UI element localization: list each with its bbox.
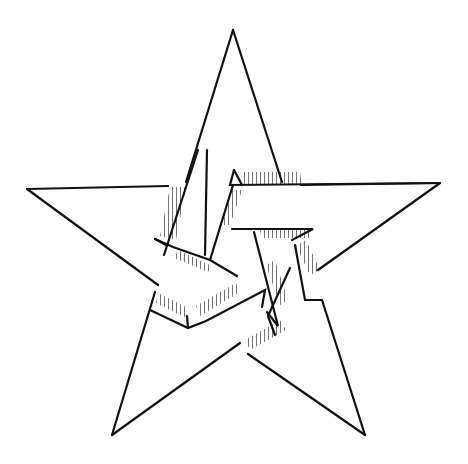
outer-edge-top-left <box>186 30 233 182</box>
pentagram-diagram: Interlaced pentagram <box>0 0 468 464</box>
hatch-4 <box>260 230 310 238</box>
outer-edge-right-bottom <box>318 183 440 270</box>
outer-edge-top-right <box>233 30 282 182</box>
outer-edge-bl-right <box>112 343 240 435</box>
hatch-1 <box>160 187 186 240</box>
outer-edge-bl-left <box>112 292 155 435</box>
outer-edge-br-right <box>322 300 365 435</box>
outer-edge-left-top <box>27 186 168 189</box>
hatch-2 <box>240 172 302 185</box>
outer-edge-br-left <box>248 354 365 435</box>
hatch-8 <box>196 283 240 316</box>
hatch-10 <box>245 320 286 350</box>
outer-edge-left-bottom <box>27 189 158 285</box>
interlaced-star-drawing <box>0 0 468 464</box>
